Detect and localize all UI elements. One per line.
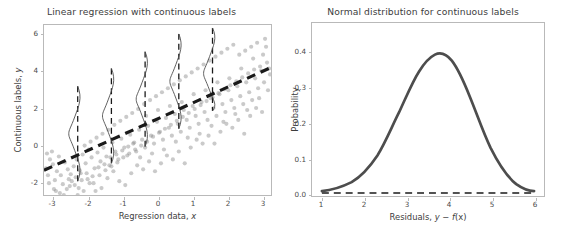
ytick-mark (309, 88, 312, 89)
xtick-label: 2 (221, 199, 235, 208)
xaxis-title-right: Residuals, y − f(x) (311, 212, 545, 222)
yaxis-title-left-text: Continuous labels, (13, 73, 23, 153)
xaxis-title-left: Regression data, x (43, 211, 272, 221)
normal-pdf-curve (322, 53, 534, 191)
xtick-label: 4 (442, 200, 456, 209)
panel-normal-distribution: Normal distribution for continuous label… (283, 0, 563, 238)
ytick-mark (41, 71, 44, 72)
xaxis-title-right-suffix: (x) (455, 212, 467, 222)
ytick-mark (41, 34, 44, 35)
figure-canvas: Linear regression with continuous labels (0, 0, 563, 238)
xtick-label: 1 (314, 200, 328, 209)
xaxis-title-right-text: Residuals, (390, 212, 435, 222)
ytick-mark (41, 146, 44, 147)
plot-linear-regression (44, 25, 271, 195)
plot-normal-distribution (312, 23, 544, 196)
xaxis-title-left-text: Regression data, (119, 211, 192, 221)
axes-linear-regression (43, 24, 272, 196)
xtick-label: -2 (81, 199, 95, 208)
yaxis-title-right: Probability (290, 22, 300, 197)
panel-linear-regression: Linear regression with continuous labels (0, 0, 283, 238)
yaxis-title-left: Continuous labels, y (13, 24, 23, 196)
xtick-label: -1 (116, 199, 130, 208)
xaxis-title-left-var: x (191, 211, 196, 221)
yaxis-title-left-var: y (13, 68, 23, 73)
chart-title-right: Normal distribution for continuous label… (283, 6, 563, 17)
chart-title-left: Linear regression with continuous labels (0, 6, 283, 17)
yaxis-title-right-text: Probability (290, 87, 300, 131)
xtick-label: 0 (151, 199, 165, 208)
ytick-mark (309, 52, 312, 53)
ytick-mark (309, 160, 312, 161)
xaxis-title-right-minus: − (440, 212, 452, 222)
xtick-label: 1 (186, 199, 200, 208)
axes-normal-distribution (311, 22, 545, 197)
xtick-label: 5 (485, 200, 499, 209)
ytick-mark (41, 183, 44, 184)
xtick-label: 2 (357, 200, 371, 209)
ytick-mark (41, 109, 44, 110)
xtick-label: 3 (256, 199, 270, 208)
ytick-mark (309, 195, 312, 196)
ytick-mark (309, 124, 312, 125)
xtick-label: 6 (528, 200, 542, 209)
xtick-label: 3 (400, 200, 414, 209)
xtick-label: -3 (45, 199, 59, 208)
